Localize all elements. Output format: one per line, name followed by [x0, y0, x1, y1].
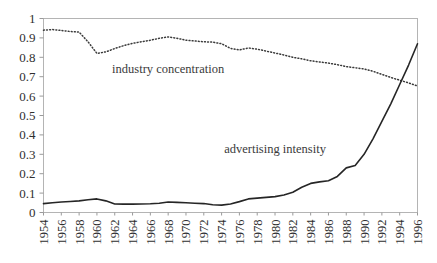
x-tick-label: 1954: [37, 219, 51, 245]
x-tick-label: 1970: [179, 220, 193, 245]
x-tick-label: 1994: [393, 219, 407, 245]
x-tick-label: 1988: [340, 220, 354, 245]
x-tick-label: 1974: [215, 219, 229, 245]
y-tick-label: 0.2: [19, 166, 35, 181]
x-tick-label: 1986: [322, 220, 336, 245]
y-tick-label: 0.9: [19, 30, 35, 45]
x-tick-label: 1996: [411, 220, 425, 245]
x-tick-label: 1956: [55, 220, 69, 245]
chart-figure: 10.90.80.70.60.50.40.30.20.10 1954195619…: [0, 0, 437, 263]
x-tick-label: 1990: [358, 220, 372, 245]
x-tick-label: 1962: [108, 220, 122, 245]
x-tick-label: 1984: [304, 219, 318, 245]
y-tick-label: 0.1: [19, 186, 35, 201]
y-tick-label: 0.8: [19, 50, 35, 65]
y-tick-label: 0.3: [19, 147, 35, 162]
x-tick-label: 1976: [233, 220, 247, 245]
x-tick-label: 1978: [251, 220, 265, 245]
y-axis-tick-labels: 10.90.80.70.60.50.40.30.20.10: [19, 11, 36, 220]
y-tick-label: 0.6: [19, 89, 36, 104]
x-tick-label: 1966: [144, 220, 158, 245]
y-tick-label: 1: [29, 11, 36, 26]
x-tick-label: 1960: [90, 220, 104, 245]
y-tick-label: 0.7: [19, 69, 36, 84]
y-tick-label: 0.5: [19, 108, 35, 123]
x-tick-label: 1968: [162, 220, 176, 245]
x-tick-label: 1982: [286, 220, 300, 245]
x-tick-label: 1980: [269, 220, 283, 245]
y-tick-label: 0.4: [19, 127, 36, 142]
series-annotation: industry concentration: [112, 62, 225, 76]
y-tick-label: 0: [29, 205, 36, 220]
x-tick-label: 1972: [197, 220, 211, 245]
chart-canvas: 10.90.80.70.60.50.40.30.20.10 1954195619…: [0, 0, 437, 263]
x-tick-label: 1964: [126, 219, 140, 245]
x-tick-label: 1958: [73, 220, 87, 245]
x-tick-label: 1992: [375, 220, 389, 245]
series-annotation: advertising intensity: [224, 142, 326, 156]
